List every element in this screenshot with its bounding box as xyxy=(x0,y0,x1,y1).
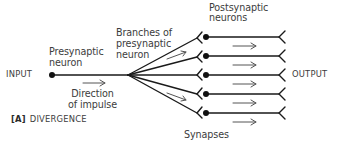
branches-label-line2: presynaptic xyxy=(116,38,172,49)
direction-label-line1: Direction xyxy=(68,88,117,99)
postsynaptic-neurons-label: Postsynaptic neurons xyxy=(209,2,268,23)
branches-label: Branches of presynaptic neuron xyxy=(116,27,172,60)
branches-label-line3: neuron xyxy=(116,49,172,60)
input-cell-body-dot xyxy=(49,72,55,78)
output-label: OUTPUT xyxy=(292,69,327,80)
presynaptic-neuron-label-line2: neuron xyxy=(49,57,104,68)
arrow-post-1-icon xyxy=(233,43,256,49)
synapse-dots xyxy=(203,34,209,116)
panel-tag: [A] xyxy=(11,114,26,124)
arrow-post-2-icon xyxy=(233,62,256,68)
branches-label-line1: Branches of xyxy=(116,27,172,38)
figure-caption: [A]DIVERGENCE xyxy=(11,114,87,125)
postsynaptic-label-line2: neurons xyxy=(209,12,268,23)
synaptic-terminals xyxy=(197,32,202,118)
figure-title: DIVERGENCE xyxy=(30,114,87,124)
direction-label-line2: of impulse xyxy=(68,99,117,110)
input-label: INPUT xyxy=(6,69,32,80)
direction-of-impulse-label: Direction of impulse xyxy=(68,88,117,110)
arrow-post-4-icon xyxy=(233,100,256,106)
output-terminals xyxy=(279,31,285,119)
presynaptic-neuron-label: Presynaptic neuron xyxy=(49,46,104,68)
presynaptic-neuron-label-line1: Presynaptic xyxy=(49,46,104,57)
arrow-post-3-icon xyxy=(233,81,256,87)
arrow-post-5-icon xyxy=(233,119,256,125)
synapses-label: Synapses xyxy=(184,129,229,140)
arrow-main-icon xyxy=(83,80,105,86)
arrow-branch-lower-icon xyxy=(167,93,186,101)
postsynaptic-neurons xyxy=(206,37,279,113)
